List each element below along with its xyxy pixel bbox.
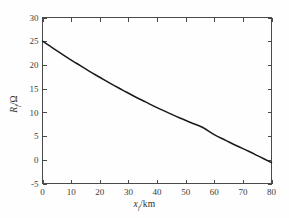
line-chart: 01020304050607080 -5051015202530 (0, 0, 289, 218)
x-axis-title: xf/km (0, 199, 289, 211)
y-axis-tick-labels: -5051015202530 (30, 13, 40, 189)
y-axis-title-unit: /Ω (9, 95, 19, 105)
y-tick-label: 5 (34, 131, 39, 141)
y-tick-label: 30 (30, 13, 40, 23)
y-axis-title-subscript: f (14, 105, 21, 107)
x-axis-title-unit: /km (140, 199, 155, 209)
x-tick-label: 50 (181, 187, 191, 197)
y-tick-label: 25 (30, 36, 40, 46)
y-tick-label: 20 (30, 60, 40, 70)
y-tick-label: 0 (34, 155, 39, 165)
data-series-rf (43, 41, 272, 162)
x-tick-label: 20 (95, 187, 105, 197)
y-axis-title-wrapper: Rf/Ω (8, 84, 22, 124)
y-tick-label: -5 (31, 179, 39, 189)
x-tick-label: 10 (67, 187, 77, 197)
x-tick-label: 40 (153, 187, 163, 197)
x-tick-label: 60 (210, 187, 220, 197)
x-axis-ticks (44, 18, 273, 184)
y-axis-title-symbol: R (9, 107, 19, 113)
x-tick-label: 70 (238, 187, 248, 197)
y-axis-title: Rf/Ω (9, 95, 21, 112)
y-axis-ticks (43, 19, 272, 185)
x-tick-label: 0 (40, 187, 45, 197)
figure-canvas: 01020304050607080 -5051015202530 xf/km R… (0, 0, 289, 218)
x-axis-tick-labels: 01020304050607080 (40, 187, 276, 197)
y-tick-label: 15 (30, 84, 40, 94)
x-tick-label: 80 (267, 187, 277, 197)
y-tick-label: 10 (30, 108, 40, 118)
x-tick-label: 30 (124, 187, 134, 197)
plot-box-frame (43, 18, 272, 184)
